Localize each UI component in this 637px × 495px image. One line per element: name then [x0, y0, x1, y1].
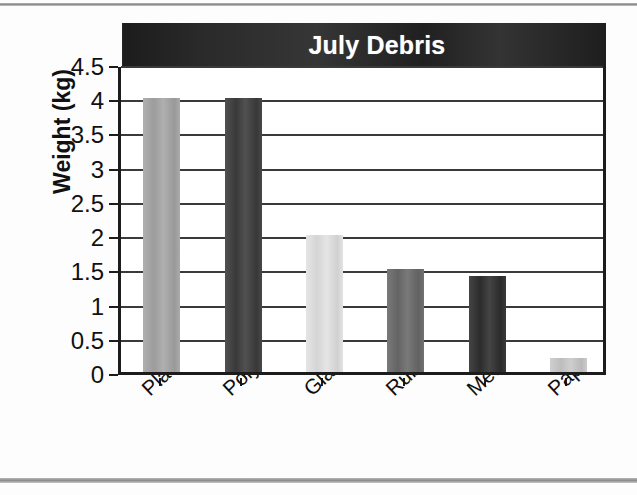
- gridline: [121, 66, 603, 68]
- y-tick-label: 2: [38, 226, 104, 250]
- bar-texture: [387, 269, 424, 372]
- y-tick-mark: [109, 271, 118, 273]
- gridline: [121, 169, 603, 171]
- bar-texture: [306, 235, 343, 372]
- bar-plastic: [143, 98, 180, 372]
- y-tick-mark: [109, 134, 118, 136]
- y-tick-mark: [109, 306, 118, 308]
- gridline: [121, 100, 603, 102]
- y-tick-label: 1.5: [38, 260, 104, 284]
- gridline: [121, 340, 603, 342]
- y-tick-label: 3.5: [38, 123, 104, 147]
- chart-title-band: July Debris: [122, 23, 606, 67]
- y-tick-label: 0.5: [38, 329, 104, 353]
- plot-area: [118, 67, 606, 375]
- gridline: [121, 271, 603, 273]
- y-tick-label: 4.5: [38, 55, 104, 79]
- y-tick-label: 2.5: [38, 192, 104, 216]
- y-tick-mark: [109, 169, 118, 171]
- y-tick-mark: [109, 203, 118, 205]
- bar-texture: [469, 276, 506, 372]
- bar-texture: [550, 358, 587, 372]
- gridline: [121, 237, 603, 239]
- y-tick-label: 0: [38, 363, 104, 387]
- chart-figure: July Debris Weight (kg) 4.543.532.521.51…: [0, 0, 637, 495]
- bar-rubber: [387, 269, 424, 372]
- gridline: [121, 203, 603, 205]
- page-bottom-rule: [0, 478, 637, 483]
- bar-texture: [143, 98, 180, 372]
- bar-texture: [225, 98, 262, 372]
- bar-glass: [306, 235, 343, 372]
- y-tick-mark: [109, 340, 118, 342]
- bar-metal: [469, 276, 506, 372]
- y-tick-label: 1: [38, 295, 104, 319]
- gridline: [121, 134, 603, 136]
- y-tick-label: 3: [38, 158, 104, 182]
- y-tick-mark: [109, 100, 118, 102]
- y-tick-mark: [109, 66, 118, 68]
- gridline: [121, 306, 603, 308]
- page-top-rule: [0, 3, 637, 6]
- bar-paper: [550, 358, 587, 372]
- y-tick-label: 4: [38, 89, 104, 113]
- bar-polystyrene: [225, 98, 262, 372]
- y-tick-mark: [109, 237, 118, 239]
- y-tick-mark: [109, 374, 118, 376]
- chart-title: July Debris: [309, 33, 446, 58]
